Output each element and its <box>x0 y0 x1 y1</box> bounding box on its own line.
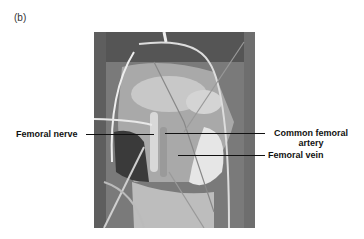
leader-line-femoral-vein <box>178 155 265 156</box>
panel-label: (b) <box>14 12 26 23</box>
surgical-photo <box>94 32 255 228</box>
label-common-femoral-artery: Common femoral artery <box>268 128 354 148</box>
label-common-femoral-artery-line2: artery <box>298 138 323 148</box>
leader-line-common-femoral-artery <box>165 133 265 134</box>
surgical-photo-illustration <box>94 32 255 228</box>
label-femoral-nerve: Femoral nerve <box>16 129 78 139</box>
leader-line-femoral-nerve <box>86 134 154 135</box>
label-common-femoral-artery-line1: Common femoral <box>274 128 348 138</box>
label-femoral-vein: Femoral vein <box>268 150 324 160</box>
